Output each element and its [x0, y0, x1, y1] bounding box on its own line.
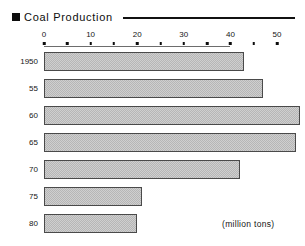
bar-80 [44, 214, 137, 233]
y-category-label-1950: 1950 [2, 57, 38, 66]
x-tick-label-50: 50 [273, 30, 282, 39]
x-axis-line [44, 46, 230, 47]
y-category-label-80: 80 [2, 219, 38, 228]
x-tick-label-40: 40 [226, 30, 235, 39]
bar-60 [44, 106, 300, 125]
chart-title-row: Coal Production [12, 9, 297, 25]
x-tick-label-10: 10 [86, 30, 95, 39]
bar-chart: 01020304050 1950556065707580 (million to… [0, 30, 305, 242]
title-rule-divider [123, 17, 295, 19]
tick-dot-0 [43, 42, 46, 45]
tick-dot-45 [252, 42, 255, 45]
filled-square-bullet-icon [12, 13, 20, 21]
tick-dot-35 [206, 42, 209, 45]
y-category-label-75: 75 [2, 192, 38, 201]
page-title: Coal Production [24, 11, 113, 23]
tick-dot-30 [183, 42, 186, 45]
tick-dot-40 [229, 42, 232, 45]
x-tick-label-20: 20 [133, 30, 142, 39]
tick-dot-10 [89, 42, 92, 45]
x-tick-label-30: 30 [179, 30, 188, 39]
bar-1950 [44, 52, 244, 71]
unit-note: (million tons) [222, 219, 274, 229]
y-category-label-55: 55 [2, 84, 38, 93]
tick-dot-50 [276, 42, 279, 45]
y-category-label-65: 65 [2, 138, 38, 147]
x-tick-label-0: 0 [42, 30, 46, 39]
y-category-label-70: 70 [2, 165, 38, 174]
bar-65 [44, 133, 296, 152]
y-category-label-60: 60 [2, 111, 38, 120]
tick-dot-5 [66, 42, 69, 45]
tick-dot-15 [113, 42, 116, 45]
bar-55 [44, 79, 263, 98]
bar-75 [44, 187, 142, 206]
tick-dot-20 [136, 42, 139, 45]
bar-70 [44, 160, 240, 179]
tick-dot-25 [159, 42, 162, 45]
